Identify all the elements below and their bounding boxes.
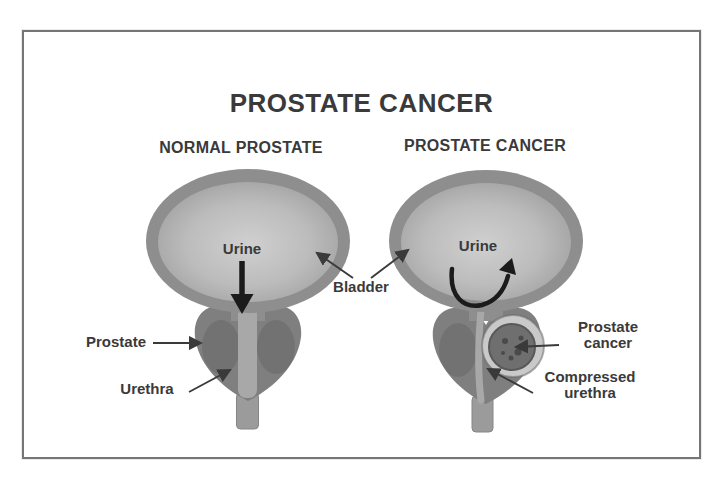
prostate-label: Prostate	[80, 334, 152, 350]
prostate-lobe-shading	[439, 323, 477, 377]
urethra-label: Urethra	[110, 381, 184, 397]
prostate-lobe-shading	[202, 320, 240, 374]
anatomy-illustration	[0, 0, 723, 477]
urine-label-cancer: Urine	[443, 238, 513, 254]
prostate-cancer-label: Prostate cancer	[561, 319, 655, 351]
bladder-label: Bladder	[321, 279, 401, 295]
compressed-urethra-label: Compressed urethra	[533, 369, 647, 401]
prostate-lobe-shading	[257, 320, 295, 374]
urine-label-normal: Urine	[207, 241, 277, 257]
urethra-channel-shape	[238, 300, 257, 398]
figure: PROSTATE CANCER NORMAL PROSTATE PROSTATE…	[0, 0, 723, 477]
